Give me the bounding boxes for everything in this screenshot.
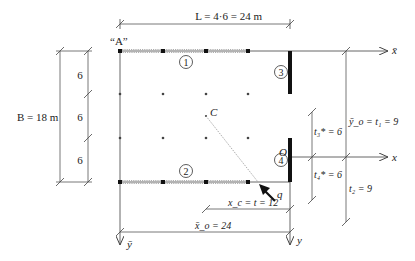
web-4 [288,138,292,182]
length-label: L = 4·6 = 24 m [195,10,262,22]
point-A-label: “A” [110,35,128,47]
origin-O-label: O [279,146,287,158]
y-bar-axis-label: ȳ [126,238,133,250]
xc-label: x_c = t = 12 [227,197,278,208]
t2-label-visible: t₂ = 9 [349,183,372,194]
width-label: B = 18 m [17,111,59,123]
section-outline [120,51,388,245]
t3-label: t₃* = 6 [314,126,342,137]
wall-1-number: 1 [184,57,189,68]
width-dimension [56,47,92,186]
load-q-label: q [277,188,283,200]
centroid-line [206,116,258,182]
segment-label-1: 6 [77,69,83,81]
wall-3-number: 3 [279,67,284,78]
x-bar-axis-label: x̄ [391,44,397,56]
grid-dots [119,93,250,140]
xo-bar-label: x̄_o = 24 [194,220,231,231]
yo-t1-label: ȳ_o = t₁ = 9 [348,116,398,127]
centroid-C-label: C [210,106,218,118]
stringers [118,49,250,184]
segment-label-2: 6 [77,111,83,123]
segment-label-3: 6 [77,154,83,166]
wall-2-number: 2 [184,166,189,177]
x-axis-label: x [391,151,397,163]
structural-section-diagram: 1 2 3 4 L = 4·6 = 24 m B = 18 m 6 6 6 “A… [0,0,415,261]
y-axis-label: y [296,234,302,246]
t4-label: t₄* = 6 [314,169,342,180]
web-3 [288,51,292,94]
wall-labels [180,56,288,178]
